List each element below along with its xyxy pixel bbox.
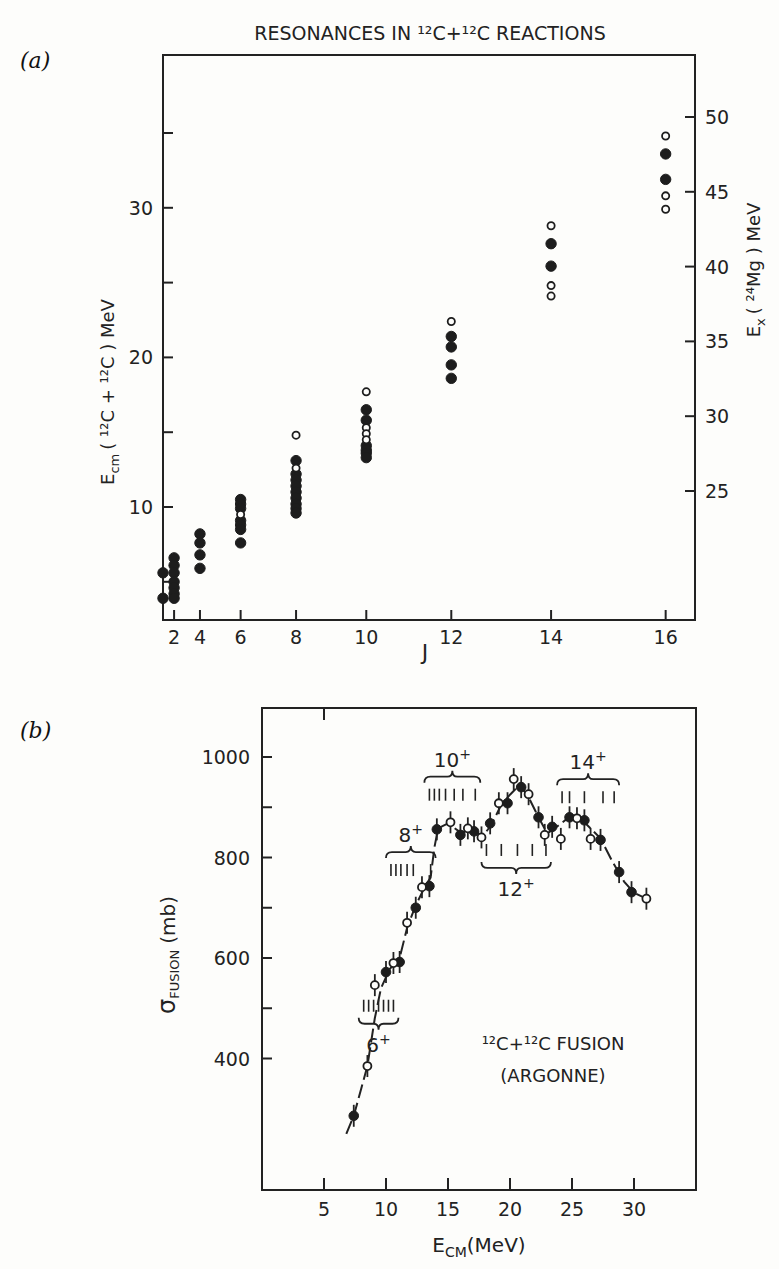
filled-point bbox=[446, 373, 456, 383]
resonance-label: 12+ bbox=[498, 875, 535, 901]
y2-tick-label: 25 bbox=[705, 480, 729, 502]
y-tick-label: 20 bbox=[129, 346, 153, 368]
marker bbox=[456, 830, 466, 840]
panel-a-y2-label-rest: ( ²⁴Mg ) MeV bbox=[743, 202, 764, 314]
panel-a-y-ticks: 102030 bbox=[129, 133, 173, 582]
panel-b-resonance-groups: 6+8+10+12+14+ bbox=[359, 746, 619, 1057]
filled-point bbox=[660, 174, 670, 184]
filled-point bbox=[169, 593, 179, 603]
resonance-brace bbox=[424, 771, 480, 783]
panel-b-label: (b) bbox=[20, 718, 51, 743]
open-point bbox=[363, 436, 370, 443]
y2-tick-label: 50 bbox=[705, 106, 729, 128]
filled-point bbox=[546, 239, 556, 249]
resonance-group-12: 12+ bbox=[481, 844, 551, 901]
filled-point bbox=[546, 261, 556, 271]
marker bbox=[525, 790, 533, 798]
open-point bbox=[642, 888, 650, 910]
panel-a-y2-label: Ex( ²⁴Mg ) MeV bbox=[743, 202, 768, 337]
panel-a-y-label-main: E bbox=[97, 474, 118, 485]
marker bbox=[403, 919, 411, 927]
filled-point bbox=[596, 829, 606, 851]
open-point bbox=[662, 206, 669, 213]
panel-b-x-label-rest: (MeV) bbox=[467, 1233, 526, 1257]
filled-point bbox=[291, 508, 301, 518]
resonance-brace bbox=[481, 862, 551, 874]
marker bbox=[349, 1111, 359, 1121]
panel-a-y2-label-sub: x bbox=[753, 318, 768, 326]
panel-b-y-label-main: σ bbox=[153, 999, 181, 1014]
filled-point bbox=[235, 524, 245, 534]
x-tick-label: 30 bbox=[622, 1198, 646, 1220]
panel-b-x-ticks: 51015202530 bbox=[318, 1178, 646, 1220]
open-point bbox=[557, 828, 565, 850]
resonance-label: 10+ bbox=[434, 746, 471, 772]
filled-point bbox=[660, 149, 670, 159]
filled-point bbox=[446, 342, 456, 352]
resonance-brace bbox=[359, 1018, 399, 1030]
marker bbox=[418, 883, 426, 891]
open-point bbox=[446, 811, 454, 833]
y2-tick-label: 40 bbox=[705, 256, 729, 278]
panel-a-y-label-rest: ( ¹²C + ¹²C ) MeV bbox=[97, 298, 118, 449]
x-tick-label: 10 bbox=[354, 626, 378, 648]
resonance-label: 14+ bbox=[570, 748, 607, 774]
x-tick-label: 8 bbox=[290, 626, 302, 648]
marker bbox=[432, 825, 442, 835]
marker bbox=[477, 833, 485, 841]
marker bbox=[642, 895, 650, 903]
resonance-brace bbox=[386, 846, 436, 858]
marker bbox=[371, 981, 379, 989]
open-point bbox=[371, 974, 379, 996]
resonance-group-6: 6+ bbox=[359, 1000, 399, 1057]
y-tick-label: 800 bbox=[214, 847, 250, 869]
filled-point bbox=[361, 405, 371, 415]
marker bbox=[614, 867, 624, 877]
open-point bbox=[547, 282, 554, 289]
panel-b-y-label-rest: (mb) bbox=[156, 896, 180, 944]
resonance-group-10: 10+ bbox=[424, 746, 480, 801]
filled-point bbox=[195, 563, 205, 573]
annotation-line2: (ARGONNE) bbox=[500, 1065, 605, 1086]
y-tick-label: 400 bbox=[214, 1048, 250, 1070]
x-tick-label: 4 bbox=[194, 626, 206, 648]
marker bbox=[446, 818, 454, 826]
panel-a-label: (a) bbox=[20, 48, 50, 73]
open-point bbox=[662, 132, 669, 139]
y-tick-label: 1000 bbox=[202, 746, 250, 768]
x-tick-label: 5 bbox=[318, 1198, 330, 1220]
panel-a-y2-label-main: E bbox=[743, 326, 764, 337]
open-point bbox=[363, 388, 370, 395]
marker bbox=[516, 782, 526, 792]
filled-point bbox=[158, 568, 168, 578]
panel-b-x-label: ECM(MeV) bbox=[432, 1233, 525, 1260]
resonance-group-14: 14+ bbox=[557, 748, 619, 803]
marker bbox=[557, 835, 565, 843]
filled-point bbox=[446, 360, 456, 370]
panel-a-y-label: Ecm( ¹²C + ¹²C ) MeV bbox=[97, 298, 122, 485]
panel-b-y-label: σFUSION(mb) bbox=[153, 896, 182, 1014]
x-tick-label: 14 bbox=[539, 626, 563, 648]
marker bbox=[534, 813, 544, 823]
marker bbox=[573, 814, 581, 822]
panel-a-x-label: J bbox=[420, 640, 429, 665]
panel-b-frame bbox=[262, 708, 696, 1190]
resonance-label: 6+ bbox=[366, 1031, 390, 1057]
filled-point bbox=[195, 538, 205, 548]
open-point bbox=[662, 192, 669, 199]
panel-a-title: RESONANCES IN ¹²C+¹²C REACTIONS bbox=[254, 22, 605, 44]
filled-point bbox=[158, 593, 168, 603]
marker bbox=[381, 967, 391, 977]
marker bbox=[485, 819, 495, 829]
x-tick-label: 15 bbox=[436, 1198, 460, 1220]
filled-point bbox=[361, 452, 371, 462]
filled-point bbox=[432, 818, 442, 840]
figure: (a) RESONANCES IN ¹²C+¹²C REACTIONS 1020… bbox=[0, 0, 779, 1269]
open-point bbox=[573, 807, 581, 829]
marker bbox=[411, 903, 421, 913]
open-point bbox=[448, 318, 455, 325]
open-point bbox=[292, 432, 299, 439]
panel-a: (a) RESONANCES IN ¹²C+¹²C REACTIONS 1020… bbox=[20, 22, 768, 665]
y-tick-label: 10 bbox=[129, 496, 153, 518]
open-point bbox=[403, 912, 411, 934]
